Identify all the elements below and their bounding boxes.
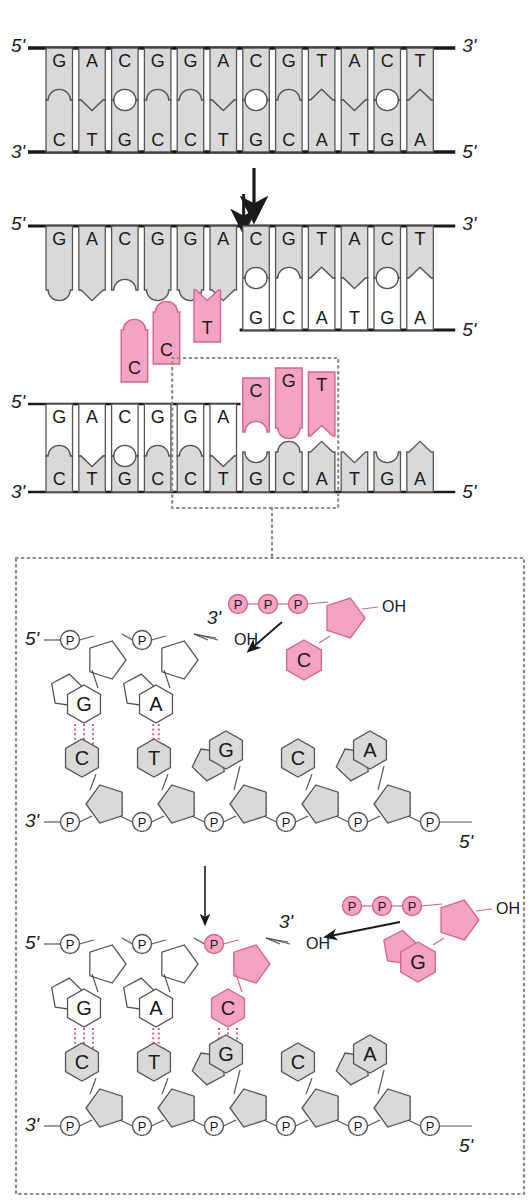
base-label: A bbox=[348, 51, 360, 71]
base-label: G bbox=[151, 51, 165, 71]
deoxyribose-sugar-template bbox=[230, 1089, 266, 1127]
base-label: A bbox=[363, 1043, 377, 1065]
label-5prime-template: 5' bbox=[459, 831, 475, 852]
deoxyribose-sugar-template bbox=[374, 785, 410, 823]
label-5prime-bottom: 5' bbox=[462, 319, 478, 340]
base-label: C bbox=[282, 469, 295, 489]
base-label: C bbox=[53, 130, 66, 150]
phosphate-label: P bbox=[138, 1119, 147, 1134]
base-label: G bbox=[249, 308, 263, 328]
base-label: A bbox=[414, 308, 426, 328]
base-template-g: G bbox=[192, 731, 242, 781]
base-g: G bbox=[52, 978, 101, 1027]
base-template-c: C bbox=[282, 739, 315, 777]
phosphate-label: P bbox=[264, 597, 273, 612]
phosphate-label: P bbox=[354, 1119, 363, 1134]
base-label: T bbox=[316, 51, 327, 71]
detail-after-addition: 5'PGPAPC3'OHPPPOHG3'5'PCPTPGPCPAP bbox=[25, 897, 520, 1157]
base-label: A bbox=[316, 130, 328, 150]
label-3prime-new-strand: 3' bbox=[207, 607, 223, 628]
base-label: C bbox=[381, 51, 394, 71]
base-g: G bbox=[52, 674, 101, 723]
hydroxyl-label-incoming: OH bbox=[382, 598, 406, 615]
hydroxyl-label-incoming: OH bbox=[496, 900, 520, 917]
phosphate-label: P bbox=[294, 597, 303, 612]
panel-new-strand-elongating: GACGGACGTCTGCCTGCATGA5'3'5' bbox=[11, 358, 478, 508]
deoxyribose-sugar-template bbox=[86, 785, 122, 823]
base-label: T bbox=[87, 469, 98, 489]
base-template-a: A bbox=[336, 731, 386, 781]
base-label: G bbox=[282, 51, 296, 71]
base-label: T bbox=[148, 747, 160, 769]
phosphate-label: P bbox=[210, 815, 219, 830]
base-label: A bbox=[316, 308, 328, 328]
phosphate-label: P bbox=[234, 597, 243, 612]
phosphate-label: P bbox=[66, 633, 75, 648]
phosphate-label: P bbox=[282, 1119, 291, 1134]
base-label: T bbox=[316, 375, 327, 395]
base-template-t: T bbox=[138, 739, 171, 777]
deoxyribose-sugar bbox=[90, 641, 126, 679]
hydroxyl-label-3prime: OH bbox=[306, 935, 330, 952]
base-template-t: T bbox=[138, 1043, 171, 1081]
label-3prime-template: 3' bbox=[25, 1114, 41, 1135]
base-label: G bbox=[118, 469, 132, 489]
base-label-incoming: C bbox=[297, 649, 311, 671]
base-label: C bbox=[250, 381, 263, 401]
detail-before-addition: 5'PGPA3'OHPPPOHC3'5'PCPTPGPCPAP bbox=[25, 595, 475, 853]
base-label: T bbox=[349, 130, 360, 150]
base-label: G bbox=[76, 997, 92, 1019]
label-3prime-bottom: 3' bbox=[11, 481, 27, 502]
label-3prime-top: 3' bbox=[462, 213, 478, 234]
base-label: C bbox=[250, 51, 263, 71]
base-label: G bbox=[76, 693, 92, 715]
phosphate-label: P bbox=[378, 899, 387, 914]
base-label: G bbox=[118, 130, 132, 150]
base-label: G bbox=[183, 51, 197, 71]
base-label: C bbox=[184, 130, 197, 150]
deoxyribose-sugar bbox=[162, 641, 198, 679]
base-label: C bbox=[75, 747, 89, 769]
base-label: G bbox=[151, 229, 165, 249]
label-5prime-top: 5' bbox=[11, 213, 27, 234]
base-label: A bbox=[86, 229, 98, 249]
base-a: A bbox=[124, 674, 173, 723]
base-label: A bbox=[149, 693, 163, 715]
label-5prime-bottom: 5' bbox=[462, 481, 478, 502]
base-template-g: G bbox=[192, 1035, 242, 1085]
base-label: G bbox=[52, 229, 66, 249]
phosphate-label: P bbox=[354, 815, 363, 830]
base-label: C bbox=[250, 229, 263, 249]
label-5prime-new-strand: 5' bbox=[25, 628, 41, 649]
phosphate-label: P bbox=[138, 633, 147, 648]
base-label: A bbox=[217, 407, 229, 427]
base-label: C bbox=[151, 130, 164, 150]
base-label: G bbox=[218, 739, 234, 761]
base-label: G bbox=[249, 130, 263, 150]
label-5prime-new-strand: 5' bbox=[25, 932, 41, 953]
base-label: C bbox=[184, 469, 197, 489]
base-label: G bbox=[380, 469, 394, 489]
base-a: A bbox=[124, 978, 173, 1027]
base-label: G bbox=[183, 407, 197, 427]
base-label: A bbox=[316, 469, 328, 489]
base-label: C bbox=[118, 407, 131, 427]
base-label: C bbox=[118, 51, 131, 71]
base-label: C bbox=[75, 1051, 89, 1073]
base-label: G bbox=[282, 229, 296, 249]
base-label: A bbox=[414, 130, 426, 150]
base-label: G bbox=[282, 371, 296, 391]
deoxyribose-sugar-template bbox=[158, 1089, 194, 1127]
base-label: C bbox=[282, 130, 295, 150]
base-label: T bbox=[316, 229, 327, 249]
base-label: A bbox=[363, 739, 377, 761]
deoxyribose-sugar bbox=[90, 945, 126, 983]
base-label: C bbox=[381, 229, 394, 249]
base-label: T bbox=[218, 469, 229, 489]
base-label: G bbox=[380, 130, 394, 150]
base-label: G bbox=[249, 469, 263, 489]
base-label: G bbox=[151, 407, 165, 427]
base-label: G bbox=[52, 407, 66, 427]
panel-intact-duplex: GCATCGGCGCATCGGCTAATCGTA5'3'3'5' bbox=[11, 35, 478, 162]
label-3prime-new-strand: 3' bbox=[279, 911, 295, 932]
